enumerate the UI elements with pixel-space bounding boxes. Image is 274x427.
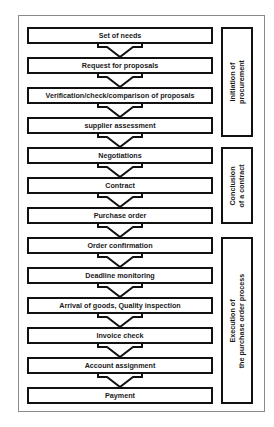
arrow-down-icon xyxy=(98,134,142,147)
arrow-down-icon xyxy=(98,164,142,177)
phase-label-line2: procurement xyxy=(237,60,246,104)
step-negotiations: Negotiations xyxy=(27,147,213,164)
arrow-down-icon xyxy=(98,194,142,207)
arrow-down-icon xyxy=(98,314,142,327)
step-payment: Payment xyxy=(27,387,213,404)
arrow-down-icon xyxy=(98,44,142,57)
arrow-down-icon xyxy=(98,224,142,237)
phase-label-line1: Initiation of xyxy=(228,60,237,104)
arrow-down-icon xyxy=(98,254,142,267)
phase-label-line2: of a contract xyxy=(237,164,246,207)
step-arrival-of-goods: Arrival of goods, Quality inspection xyxy=(27,297,213,314)
phase-label: Initiation of procurement xyxy=(228,60,246,104)
step-contract: Contract xyxy=(27,177,213,194)
arrow-down-icon xyxy=(98,284,142,297)
phase-label: Conclusion of a contract xyxy=(228,164,246,207)
phase-label-line1: Conclusion xyxy=(228,164,237,207)
step-account-assignment: Account assignment xyxy=(27,357,213,374)
arrow-down-icon xyxy=(98,374,142,387)
step-deadline-monitoring: Deadline monitoring xyxy=(27,267,213,284)
step-verification-of-proposals: Verification/check/comparison of proposa… xyxy=(27,87,213,104)
arrow-down-icon xyxy=(98,344,142,357)
step-supplier-assessment: supplier assessment xyxy=(27,117,213,134)
step-set-of-needs: Set of needs xyxy=(27,27,213,44)
phase-execution-of-purchase-order: Execution of the purchase order process xyxy=(221,237,253,404)
arrow-down-icon xyxy=(98,104,142,117)
phase-label-line1: Execution of xyxy=(228,273,237,368)
phase-initiation-of-procurement: Initiation of procurement xyxy=(221,27,253,137)
arrow-down-icon xyxy=(98,74,142,87)
step-request-for-proposals: Request for proposals xyxy=(27,57,213,74)
phase-label-line2: the purchase order process xyxy=(237,273,246,368)
step-purchase-order: Purchase order xyxy=(27,207,213,224)
step-order-confirmation: Order confirmation xyxy=(27,237,213,254)
phase-label: Execution of the purchase order process xyxy=(228,273,246,368)
step-invoice-check: Invoice check xyxy=(27,327,213,344)
phase-conclusion-of-contract: Conclusion of a contract xyxy=(221,147,253,224)
